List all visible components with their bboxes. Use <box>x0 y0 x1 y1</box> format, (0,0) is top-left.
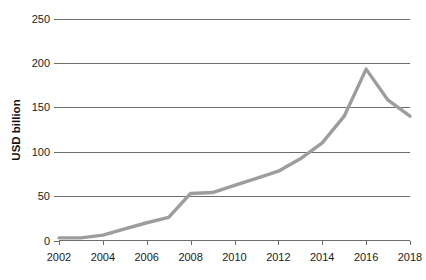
x-axis-tick-labels: 200220042006200820102012201420162018 <box>47 251 422 263</box>
y-axis-title: USD billion <box>10 99 22 160</box>
data-series-group <box>59 69 410 238</box>
x-tick-label: 2008 <box>178 251 202 263</box>
y-tick-label: 0 <box>44 235 50 247</box>
x-tick-label: 2004 <box>91 251 115 263</box>
x-tick-label: 2014 <box>310 251 334 263</box>
y-tick-label: 200 <box>32 57 50 69</box>
x-tick-label: 2002 <box>47 251 71 263</box>
y-axis-tick-marks <box>54 20 59 242</box>
x-tick-label: 2016 <box>354 251 378 263</box>
gridlines <box>59 20 410 197</box>
y-tick-label: 150 <box>32 101 50 113</box>
x-tick-label: 2018 <box>398 251 422 263</box>
y-tick-label: 50 <box>38 190 50 202</box>
y-tick-label: 100 <box>32 146 50 158</box>
x-tick-label: 2010 <box>222 251 246 263</box>
chart-container: 050100150200250 200220042006200820102012… <box>0 0 426 280</box>
line-chart: 050100150200250 200220042006200820102012… <box>0 0 426 280</box>
x-tick-label: 2012 <box>266 251 290 263</box>
x-tick-label: 2006 <box>135 251 159 263</box>
y-tick-label: 250 <box>32 13 50 25</box>
y-axis-tick-labels: 050100150200250 <box>32 13 50 247</box>
x-axis-tick-marks <box>60 241 411 245</box>
series-line <box>59 69 410 238</box>
